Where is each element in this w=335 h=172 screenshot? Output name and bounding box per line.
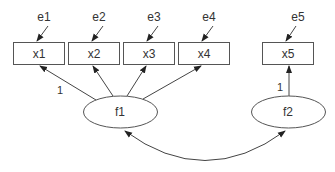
error-arrow-e4 bbox=[202, 26, 213, 41]
loading-arrow-f1-x4 bbox=[143, 66, 201, 99]
loading-label-x5: 1 bbox=[277, 81, 283, 93]
loading-arrow-f1-x1 bbox=[40, 66, 96, 100]
loading-label-x1: 1 bbox=[57, 84, 63, 96]
loading-arrow-f1-x2 bbox=[93, 66, 113, 96]
observed-label-x4: x4 bbox=[198, 47, 211, 61]
observed-box-x4: x4 bbox=[179, 43, 230, 65]
error-label-e5: e5 bbox=[291, 10, 305, 24]
observed-box-x5: x5 bbox=[263, 43, 314, 65]
sem-diagram: e1 e2 e3 e4 e5 x1 x2 x3 x4 x5 1 1 f1 bbox=[0, 0, 335, 172]
latent-ellipse-f1: f1 bbox=[84, 96, 158, 128]
error-arrow-e5 bbox=[286, 26, 296, 41]
observed-box-x1: x1 bbox=[14, 43, 65, 65]
observed-label-x3: x3 bbox=[143, 47, 156, 61]
observed-box-x3: x3 bbox=[124, 43, 175, 65]
observed-label-x2: x2 bbox=[88, 47, 101, 61]
error-label-e4: e4 bbox=[202, 10, 216, 24]
observed-label-x5: x5 bbox=[282, 47, 295, 61]
error-arrow-e3 bbox=[147, 26, 158, 41]
error-arrow-e2 bbox=[92, 26, 103, 41]
error-label-e2: e2 bbox=[92, 10, 106, 24]
error-label-e1: e1 bbox=[37, 10, 51, 24]
latent-ellipse-f2: f2 bbox=[252, 96, 326, 128]
latent-label-f1: f1 bbox=[115, 105, 125, 119]
error-label-e3: e3 bbox=[147, 10, 161, 24]
covariance-arrow-f1-f2 bbox=[125, 131, 285, 161]
observed-label-x1: x1 bbox=[33, 47, 46, 61]
error-arrow-e1 bbox=[37, 26, 48, 41]
observed-box-x2: x2 bbox=[69, 43, 120, 65]
loading-arrow-f1-x3 bbox=[127, 66, 146, 96]
latent-label-f2: f2 bbox=[283, 105, 293, 119]
